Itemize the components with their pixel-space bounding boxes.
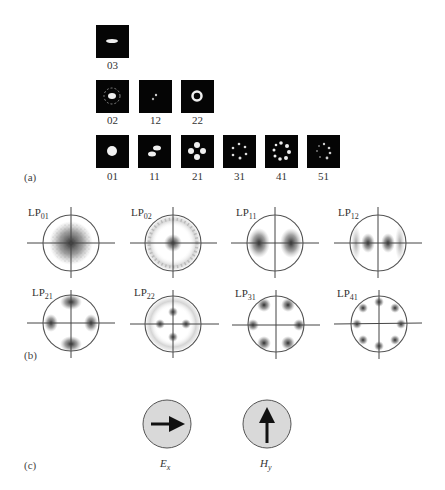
panel-c-label: (c) [24,459,36,471]
hy-field-icon [243,400,291,448]
polarization-diagram [0,0,445,490]
ex-field-icon [143,400,191,448]
hy-label: Hy [260,457,272,472]
ex-label: Ex [160,457,170,472]
